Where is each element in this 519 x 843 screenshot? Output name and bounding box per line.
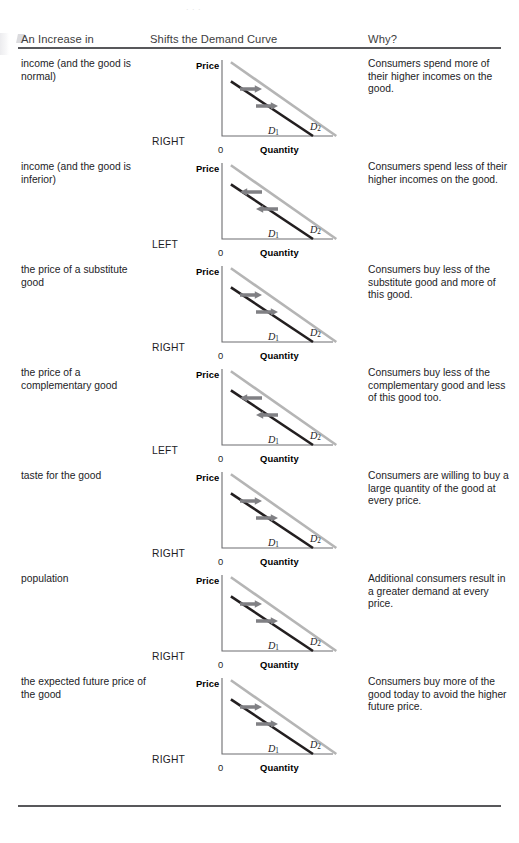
shift-arrow-left (256, 205, 278, 213)
axis-origin-label: 0 (218, 556, 223, 567)
curve-label-d2: D2 (310, 636, 321, 648)
table-row: the price of a complementary goodPriceQu… (0, 365, 519, 468)
axis-origin-label: 0 (218, 762, 223, 773)
table-row: income (and the good is inferior)PriceQu… (0, 159, 519, 262)
row-cause-label: the expected future price of the good (21, 676, 149, 701)
curve-label-d2: D2 (310, 327, 321, 339)
axis-label-quantity: Quantity (260, 659, 299, 670)
axis-label-quantity: Quantity (260, 453, 299, 464)
axis-origin-label: 0 (218, 453, 223, 464)
shift-arrow-right (256, 102, 278, 110)
table-row: the expected future price of the goodPri… (0, 674, 519, 777)
curve-label-d1: D1 (268, 640, 279, 652)
axis-label-price: Price (196, 472, 219, 483)
page-top-fragment-artifact: . . . (186, 2, 246, 11)
axis-label-price: Price (196, 163, 219, 174)
row-demand-graph: PriceQuantity0D1D2 (196, 262, 356, 365)
row-why-text: Additional consumers result in a greater… (368, 573, 510, 611)
row-shift-direction: LEFT (152, 239, 178, 250)
row-shift-direction: RIGHT (152, 342, 185, 353)
table-row: the price of a substitute goodPriceQuant… (0, 262, 519, 365)
row-cause-label: the price of a substitute good (21, 264, 149, 289)
row-shift-direction: LEFT (152, 445, 178, 456)
curve-label-d1: D1 (268, 537, 279, 549)
row-why-text: Consumers buy less of the complementary … (368, 367, 510, 405)
row-demand-graph: PriceQuantity0D1D2 (196, 571, 356, 674)
curve-label-d1: D1 (268, 434, 279, 446)
axis-origin-label: 0 (218, 144, 223, 155)
row-shift-direction: RIGHT (152, 754, 185, 765)
table-row: populationPriceQuantity0D1D2RIGHTAdditio… (0, 571, 519, 674)
curve-label-d1: D1 (268, 331, 279, 343)
axis-label-price: Price (196, 60, 219, 71)
row-cause-label: income (and the good is normal) (21, 58, 149, 83)
left-edge-scan-artifact (0, 33, 9, 55)
textbook-table-page: . . . An Increase in Shifts the Demand C… (0, 0, 519, 843)
row-demand-graph: PriceQuantity0D1D2 (196, 468, 356, 571)
shift-arrow-left (256, 411, 278, 419)
row-shift-direction: RIGHT (152, 136, 185, 147)
row-demand-graph: PriceQuantity0D1D2 (196, 365, 356, 468)
curve-label-d2: D2 (310, 121, 321, 133)
curve-label-d1: D1 (268, 125, 279, 137)
curve-label-d2: D2 (310, 430, 321, 442)
axis-label-price: Price (196, 678, 219, 689)
row-demand-graph: PriceQuantity0D1D2 (196, 674, 356, 777)
shift-arrow-right (256, 514, 278, 522)
table-row: taste for the goodPriceQuantity0D1D2RIGH… (0, 468, 519, 571)
shift-arrow-right (240, 291, 262, 299)
axis-label-price: Price (196, 369, 219, 380)
table-row: income (and the good is normal)PriceQuan… (0, 56, 519, 159)
row-shift-direction: RIGHT (152, 548, 185, 559)
axis-label-quantity: Quantity (260, 762, 299, 773)
shift-arrow-right (240, 600, 262, 608)
column-header-graph: Shifts the Demand Curve (150, 33, 277, 45)
row-why-text: Consumers buy less of the substitute goo… (368, 264, 510, 302)
row-cause-label: population (21, 573, 149, 586)
shift-arrow-right (240, 703, 262, 711)
axis-label-quantity: Quantity (260, 144, 299, 155)
column-header-why: Why? (368, 33, 397, 45)
row-shift-direction: RIGHT (152, 651, 185, 662)
row-demand-graph: PriceQuantity0D1D2 (196, 56, 356, 159)
shift-arrow-right (240, 497, 262, 505)
curve-label-d1: D1 (268, 228, 279, 240)
curve-label-d2: D2 (310, 533, 321, 545)
axis-label-quantity: Quantity (260, 247, 299, 258)
axis-label-price: Price (196, 266, 219, 277)
row-why-text: Consumers are willing to buy a large qua… (368, 470, 510, 508)
shift-arrow-left (240, 188, 262, 196)
row-why-text: Consumers spend more of their higher inc… (368, 58, 510, 96)
axis-label-quantity: Quantity (260, 350, 299, 361)
curve-label-d1: D1 (268, 743, 279, 755)
axis-origin-label: 0 (218, 247, 223, 258)
table-header-rule (18, 47, 501, 49)
axis-origin-label: 0 (218, 350, 223, 361)
shift-arrow-left (240, 394, 262, 402)
shift-arrow-right (240, 85, 262, 93)
row-why-text: Consumers spend less of their higher inc… (368, 161, 510, 186)
row-cause-label: income (and the good is inferior) (21, 161, 149, 186)
shift-arrow-right (256, 617, 278, 625)
row-why-text: Consumers buy more of the good today to … (368, 676, 510, 714)
curve-label-d2: D2 (310, 739, 321, 751)
row-cause-label: taste for the good (21, 470, 149, 483)
row-demand-graph: PriceQuantity0D1D2 (196, 159, 356, 262)
shift-arrow-right (256, 720, 278, 728)
curve-label-d2: D2 (310, 224, 321, 236)
axis-label-quantity: Quantity (260, 556, 299, 567)
shift-arrow-right (256, 308, 278, 316)
axis-origin-label: 0 (218, 659, 223, 670)
table-bottom-rule (18, 805, 501, 807)
column-header-cause: An Increase in (21, 33, 94, 45)
axis-label-price: Price (196, 575, 219, 586)
row-cause-label: the price of a complementary good (21, 367, 149, 392)
